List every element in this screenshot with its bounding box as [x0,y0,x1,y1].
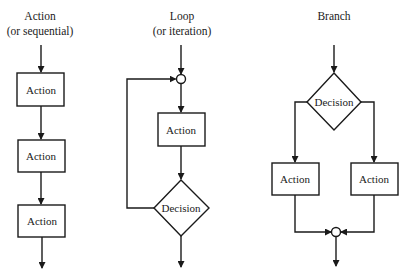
arrow-right-merge [341,195,374,232]
branch-title: Branch [317,11,350,23]
sequential-title: Action [24,11,55,23]
junction-circle [177,75,186,84]
arrow-left-merge [295,195,331,232]
action-label: Action [27,216,57,227]
decision-label: Decision [314,97,353,108]
arrow-left-branch [295,102,307,162]
loop-flow [127,45,209,267]
loop-title: Loop [170,11,194,23]
arrow-right-branch [361,102,374,162]
action-label: Action [359,174,389,185]
action-label: Action [166,125,196,136]
sequential-subtitle: (or sequential) [7,26,74,38]
action-label: Action [280,174,310,185]
diagram-svg [0,0,409,280]
action-label: Action [26,151,56,162]
branch-flow [272,45,398,266]
loop-subtitle: (or iteration) [153,26,211,38]
flowchart-diagram: Action (or sequential) Loop (or iteratio… [0,0,409,280]
action-label: Action [26,85,56,96]
decision-label: Decision [161,203,200,214]
merge-junction-circle [332,228,341,237]
